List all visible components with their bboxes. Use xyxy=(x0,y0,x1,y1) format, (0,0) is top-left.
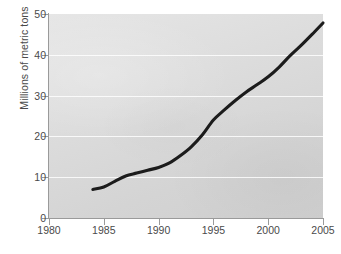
y-axis-title: Millions of metric tons xyxy=(18,0,30,138)
x-tick-mark-2000 xyxy=(268,219,269,225)
y-tick-label-40: 40 xyxy=(34,49,46,61)
x-axis-line xyxy=(48,218,324,219)
y-tick-label-30: 30 xyxy=(34,90,46,102)
chart-figure: 01020304050 198019851990199520002005 Mil… xyxy=(0,0,341,254)
x-tick-mark-1985 xyxy=(104,219,105,225)
x-tick-mark-1995 xyxy=(213,219,214,225)
data-series-line xyxy=(49,14,323,218)
x-tick-label-1980: 1980 xyxy=(37,224,60,236)
y-tick-label-0: 0 xyxy=(40,212,46,224)
x-tick-label-2005: 2005 xyxy=(311,224,334,236)
x-tick-label-1995: 1995 xyxy=(202,224,225,236)
clipped-caption xyxy=(8,246,328,254)
y-tick-label-20: 20 xyxy=(34,130,46,142)
y-tick-label-50: 50 xyxy=(34,8,46,20)
x-tick-label-1990: 1990 xyxy=(147,224,170,236)
x-tick-label-2000: 2000 xyxy=(257,224,280,236)
x-tick-label-1985: 1985 xyxy=(92,224,115,236)
x-tick-mark-2005 xyxy=(323,219,324,225)
x-tick-mark-1980 xyxy=(49,219,50,225)
series-path xyxy=(93,23,323,189)
x-tick-mark-1990 xyxy=(159,219,160,225)
y-tick-label-10: 10 xyxy=(34,171,46,183)
